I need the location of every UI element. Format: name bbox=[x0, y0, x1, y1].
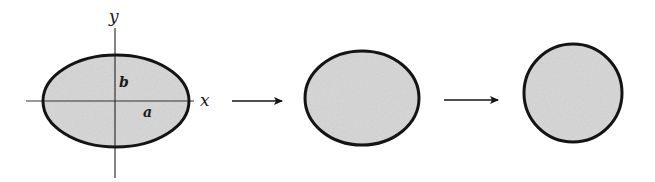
stage-3-circle-group bbox=[524, 44, 622, 142]
x-axis-label: x bbox=[200, 90, 210, 110]
stage-1-ellipse-group: y x b a bbox=[26, 6, 210, 178]
y-axis-label: y bbox=[108, 6, 119, 26]
semi-axis-a-label: a bbox=[143, 104, 152, 120]
semi-axis-b-label: b bbox=[119, 74, 129, 90]
stage-2-ellipse-group bbox=[305, 51, 419, 145]
ellipse-to-circle-diagram: y x b a bbox=[0, 0, 655, 182]
